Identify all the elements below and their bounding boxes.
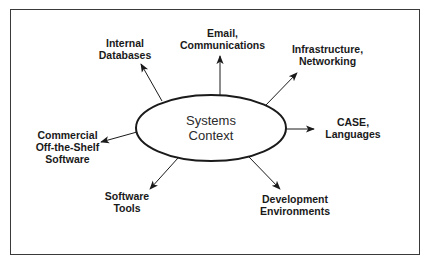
- node-email-communications: Email, Communications: [175, 27, 270, 51]
- node-case-languages: CASE, Languages: [318, 116, 388, 140]
- center-node-label: Systems Context: [161, 113, 261, 143]
- node-cots-software: Commercial Off-the-Shelf Software: [30, 129, 105, 165]
- edge-arrow-software-tools: [150, 158, 178, 189]
- node-internal-databases: Internal Databases: [90, 37, 160, 61]
- edge-arrow-cots-software: [101, 132, 137, 142]
- node-development-environments: Development Environments: [250, 193, 340, 217]
- node-infrastructure-networking: Infrastructure, Networking: [280, 43, 375, 67]
- edge-arrow-infrastructure-networking: [265, 73, 297, 106]
- edge-arrow-internal-databases: [141, 64, 162, 101]
- node-software-tools: Software Tools: [97, 190, 157, 214]
- edge-arrow-development-environments: [249, 157, 280, 189]
